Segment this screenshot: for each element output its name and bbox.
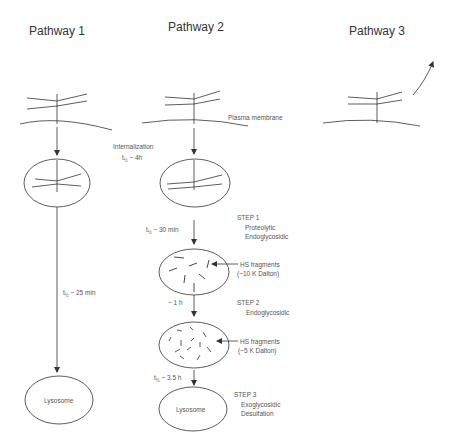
half-life-step-3: t½ ~ 3.5 h: [154, 373, 181, 385]
half-life-step-1: t½ ~ 30 min: [146, 225, 179, 237]
step-3-line-2: Desulfation: [241, 409, 274, 418]
lysosome-1-label: Lysosome: [44, 396, 73, 405]
hs-fragments-5k: [169, 327, 211, 360]
arrow-shedding: [413, 62, 433, 95]
lysosome-2-label: Lysosome: [176, 405, 205, 414]
step-1-title: STEP 1: [237, 213, 259, 222]
step-2-line-1: Endoglycosidic: [246, 308, 289, 317]
half-life-step-2: ~ 1 h: [168, 298, 183, 307]
pathway-1-proteoglycan: [20, 94, 112, 130]
hs-fragments-10k-size: (~10 K Dalton): [237, 269, 279, 278]
pathway-3-proteoglycan: [323, 92, 420, 126]
hs-fragments-10k-label: HS fragments: [240, 260, 280, 269]
pathway-3-title: Pathway 3: [349, 24, 405, 38]
hs-fragments-5k-label: HS fragments: [240, 337, 280, 346]
step-1-line-2: Endoglycosidic: [245, 232, 288, 241]
half-life-internalization: t½ ~ 4h: [122, 153, 142, 165]
endosome-2-proteoglycan: [167, 160, 222, 190]
step-3-line-1: Exoglycosidic: [241, 400, 280, 409]
pathway-1-title: Pathway 1: [29, 24, 85, 38]
pathway-diagram: [0, 0, 451, 446]
hs-fragments-5k-size: (~5 K Dalton): [238, 346, 276, 355]
hs-fragments-10k: [169, 257, 209, 292]
step-2-title: STEP 2: [237, 298, 259, 307]
step-1-line-1: Proteolytic: [245, 223, 275, 232]
plasma-membrane-label: Plasma membrane: [228, 113, 283, 122]
internalization-label: Internalization: [113, 142, 153, 151]
half-life-pathway-1: t½ ~ 25 min: [63, 288, 96, 300]
step-3-title: STEP 3: [234, 390, 256, 399]
endosome-1-proteoglycan: [32, 160, 81, 192]
pathway-2-title: Pathway 2: [168, 20, 224, 34]
vesicle-step-2: [159, 322, 229, 368]
endosome-2: [160, 159, 230, 207]
